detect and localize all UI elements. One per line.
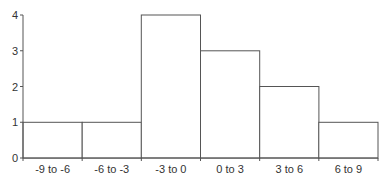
x-tick-label: 6 to 9 bbox=[335, 163, 363, 175]
histogram-chart: 01234 -9 to -6-6 to -3-3 to 00 to 33 to … bbox=[0, 0, 389, 183]
bar-1 bbox=[82, 122, 141, 158]
y-axis-ticks: 01234 bbox=[12, 9, 23, 164]
x-axis-labels: -9 to -6-6 to -3-3 to 00 to 33 to 66 to … bbox=[23, 158, 378, 175]
bar-2 bbox=[141, 15, 200, 158]
bar-4 bbox=[260, 87, 319, 159]
bar-0 bbox=[23, 122, 82, 158]
bar-3 bbox=[201, 51, 260, 158]
y-tick-label: 4 bbox=[12, 9, 18, 21]
y-tick-label: 3 bbox=[12, 45, 18, 57]
x-tick-label: -9 to -6 bbox=[35, 163, 70, 175]
x-tick-label: -3 to 0 bbox=[155, 163, 186, 175]
bars bbox=[23, 15, 378, 158]
x-tick-label: 3 to 6 bbox=[276, 163, 304, 175]
x-tick-label: -6 to -3 bbox=[94, 163, 129, 175]
y-tick-label: 1 bbox=[12, 116, 18, 128]
y-tick-label: 0 bbox=[12, 152, 18, 164]
y-tick-label: 2 bbox=[12, 81, 18, 93]
x-tick-label: 0 to 3 bbox=[216, 163, 244, 175]
bar-5 bbox=[319, 122, 378, 158]
